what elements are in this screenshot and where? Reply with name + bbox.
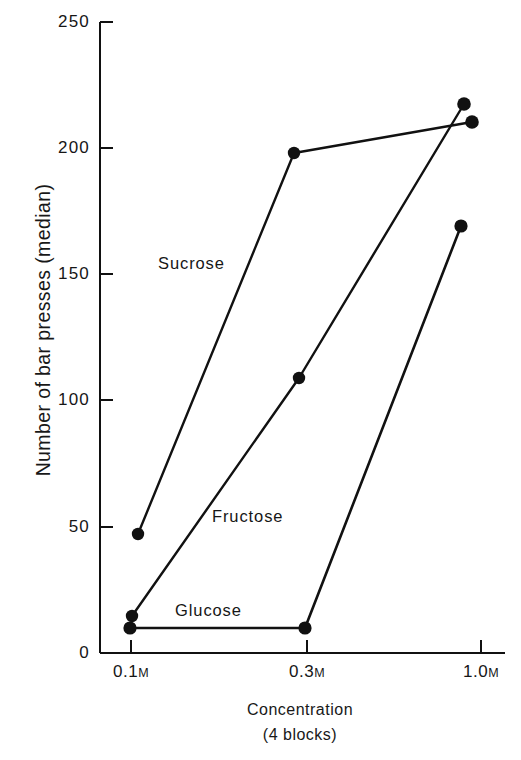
sucrose-point-0 <box>132 528 144 540</box>
x-axis-ticks <box>131 640 481 653</box>
x-axis-title: Concentration <box>100 697 500 722</box>
fructose-point-1 <box>293 372 305 384</box>
chart-figure: Number of bar presses (median) 250 200 1… <box>0 0 521 760</box>
axis-lines <box>100 22 505 653</box>
plot-area <box>0 0 521 760</box>
x-axis-subtitle: (4 blocks) <box>100 722 500 747</box>
fructose-polyline <box>132 104 464 616</box>
fructose-point-2 <box>457 97 471 111</box>
series-line-fructose <box>126 97 471 622</box>
x-axis-title-block: Concentration (4 blocks) <box>100 697 500 747</box>
sucrose-point-2 <box>465 115 479 129</box>
glucose-point-2 <box>454 219 467 232</box>
glucose-point-0 <box>123 621 136 634</box>
fructose-point-0 <box>126 610 138 622</box>
y-axis-ticks <box>100 22 113 527</box>
series-line-glucose <box>123 219 467 634</box>
sucrose-point-1 <box>288 147 300 159</box>
glucose-polyline <box>130 226 461 628</box>
series-line-sucrose <box>132 115 479 540</box>
glucose-point-1 <box>298 621 311 634</box>
